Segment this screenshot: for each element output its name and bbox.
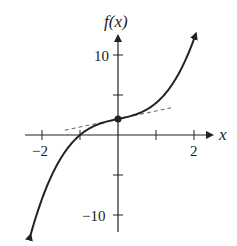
x-tick-label-2: 2 (190, 143, 198, 159)
y-tick-label-10: 10 (94, 48, 109, 64)
y-tick-label-neg10: −10 (82, 208, 105, 224)
cubic-function-chart: −2 2 10 −10 f(x) x (0, 0, 237, 246)
function-curve (31, 34, 196, 235)
y-intercept-point (115, 116, 122, 123)
y-axis-label: f(x) (104, 12, 128, 31)
x-tick-label-neg2: −2 (32, 143, 48, 159)
x-axis-label: x (218, 125, 227, 144)
